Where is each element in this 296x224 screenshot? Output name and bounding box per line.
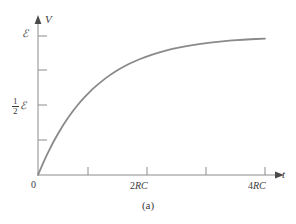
y-tick-label-half-emf: 1 2 ℰ (12, 97, 26, 116)
figure-capacitor-charging-curve: V t 0 ℰ 1 2 ℰ 2RC 4RC (a) (0, 0, 296, 224)
origin-tick-label: 0 (31, 180, 36, 190)
tick-unit-rc: RC (253, 180, 266, 191)
emf-symbol: ℰ (22, 28, 28, 39)
x-axis-label: t (282, 169, 285, 180)
one-half-fraction: 1 2 (12, 97, 19, 116)
emf-symbol: ℰ (20, 101, 26, 112)
x-tick-label-2rc: 2RC (130, 181, 148, 191)
fraction-numerator: 1 (12, 97, 19, 106)
y-axis-label: V (45, 14, 52, 25)
tick-unit-rc: RC (135, 180, 148, 191)
fraction-denominator: 2 (12, 106, 19, 116)
y-tick-label-emf: ℰ (22, 29, 28, 40)
x-tick-label-4rc: 4RC (248, 181, 266, 191)
y-axis-arrowhead-icon (35, 15, 42, 24)
figure-caption: (a) (0, 199, 296, 211)
charging-curve (38, 39, 265, 175)
